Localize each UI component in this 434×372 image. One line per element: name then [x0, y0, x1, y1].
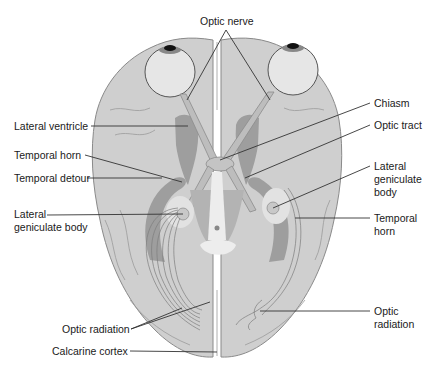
label-optic-nerve: Optic nerve [200, 15, 254, 27]
label-optic-radiation-right-1: Optic [374, 305, 399, 317]
label-chiasm: Chiasm [374, 97, 410, 109]
label-lgb-left-1: Lateral [14, 208, 46, 220]
label-optic-radiation-right-2: radiation [374, 318, 414, 330]
label-optic-tract: Optic tract [374, 119, 422, 131]
label-optic-radiation-left: Optic radiation [62, 323, 130, 335]
label-temporal-detour: Temporal detour [14, 172, 90, 184]
label-lgb-right-2: geniculate [374, 173, 422, 185]
label-lgb-right-3: body [374, 186, 398, 198]
label-temporal-horn-right-2: horn [374, 225, 395, 237]
visual-pathway-diagram: Optic nerve Chiasm Optic tract Lateral v… [0, 0, 434, 372]
label-lgb-right-1: Lateral [374, 160, 406, 172]
label-calcarine-cortex: Calcarine cortex [52, 345, 129, 357]
label-lgb-left-2: geniculate body [14, 221, 88, 233]
label-temporal-horn-left: Temporal horn [14, 149, 81, 161]
aqueduct [215, 226, 220, 231]
label-lateral-ventricle: Lateral ventricle [14, 120, 88, 132]
label-temporal-horn-right-1: Temporal [374, 212, 417, 224]
